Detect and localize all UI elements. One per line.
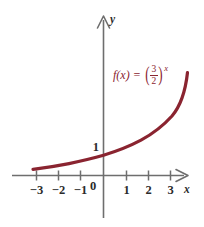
x-tick-label-neg2: −2: [48, 184, 70, 197]
right-paren: ): [158, 66, 162, 84]
x-tick-label-neg3: −3: [26, 184, 48, 197]
fraction-denominator: 2: [151, 76, 156, 86]
fraction-numerator: 3: [151, 64, 156, 74]
x-tick-label-pos2: 2: [138, 184, 160, 197]
fraction-three-halves: 3 2: [150, 64, 158, 87]
x-tick-label-neg1: −1: [70, 184, 92, 197]
exponential-function-figure: y x 0 1 −3 −2 −1 1 2 3 f(x) = ( 3 2 ) x: [0, 0, 204, 227]
equals-sign: =: [133, 68, 141, 83]
left-paren: (: [145, 66, 149, 84]
x-tick-label-pos1: 1: [116, 184, 138, 197]
x-tick-label-pos3: 3: [160, 184, 182, 197]
y-intercept-label: 1: [83, 141, 99, 154]
x-axis-label: x: [184, 184, 190, 196]
function-name: f(x): [113, 68, 130, 83]
exponent-x: x: [164, 63, 168, 73]
function-equation-label: f(x) = ( 3 2 ) x: [113, 64, 168, 87]
y-axis-label: y: [110, 14, 115, 26]
function-curve: [33, 73, 188, 170]
